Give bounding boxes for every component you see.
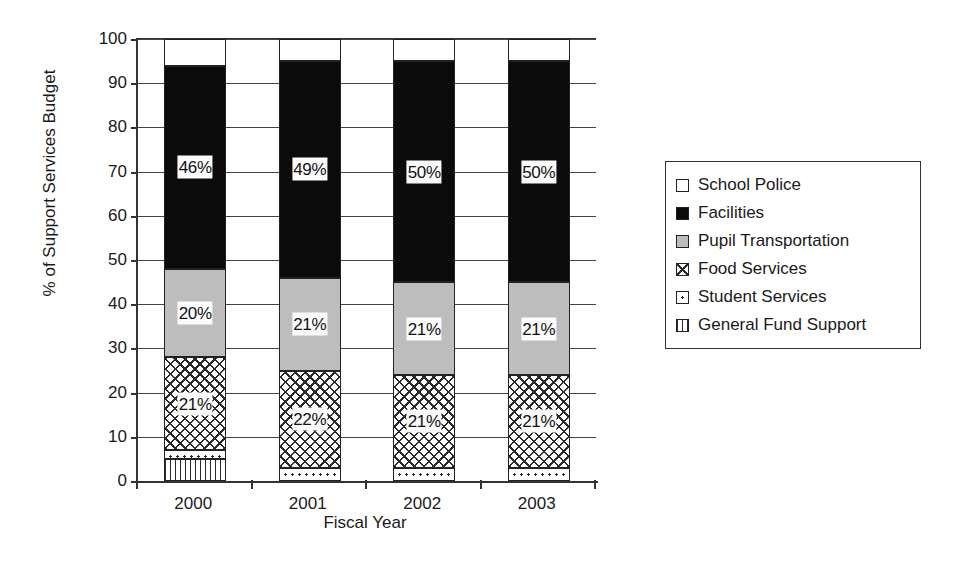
bar-segment-2003-food-services[interactable]: 21% (509, 375, 569, 468)
legend-item-student-services[interactable]: Student Services (676, 283, 912, 311)
y-tick-label-80: 80 (108, 117, 127, 137)
x-tick-label-2003: 2003 (518, 494, 556, 514)
bar-segment-2002-student-services[interactable] (394, 468, 454, 481)
bar-segment-value-label: 21% (407, 410, 442, 433)
bar-segment-2002-food-services[interactable]: 21% (394, 375, 454, 468)
legend-swatch-icon (676, 179, 689, 192)
y-tick-label-20: 20 (108, 383, 127, 403)
legend-item-label: Student Services (698, 287, 827, 307)
legend-item-pupil-transportation[interactable]: Pupil Transportation (676, 227, 912, 255)
y-tick-mark-70 (131, 172, 138, 174)
legend-swatch-icon (676, 291, 689, 304)
x-tick-mark-0 (136, 480, 138, 489)
chart-legend: School PoliceFacilitiesPupil Transportat… (665, 161, 921, 349)
y-tick-label-30: 30 (108, 338, 127, 358)
bar-segment-value-label: 21% (178, 392, 213, 415)
y-tick-label-40: 40 (108, 294, 127, 314)
bar-2003[interactable]: 21%21%50% (508, 39, 570, 481)
legend-item-label: Pupil Transportation (698, 231, 849, 251)
x-tick-mark-1 (251, 480, 253, 489)
legend-item-label: Food Services (698, 259, 807, 279)
bar-segment-2000-pupil-transportation[interactable]: 20% (165, 269, 225, 357)
bar-segment-2003-student-services[interactable] (509, 468, 569, 481)
bar-segment-value-label: 21% (292, 313, 327, 336)
x-tick-mark-2 (365, 480, 367, 489)
bar-segment-2003-facilities[interactable]: 50% (509, 61, 569, 282)
bar-2000[interactable]: 21%20%46% (164, 39, 226, 481)
bar-segment-2000-school-police[interactable] (165, 39, 225, 66)
legend-swatch-icon (676, 319, 689, 332)
bar-segment-2001-pupil-transportation[interactable]: 21% (280, 278, 340, 371)
bar-segment-2001-school-police[interactable] (280, 39, 340, 61)
bar-segment-2000-general-fund-support[interactable] (165, 459, 225, 481)
bar-segment-value-label: 21% (521, 410, 556, 433)
legend-item-facilities[interactable]: Facilities (676, 199, 912, 227)
y-tick-mark-50 (131, 260, 138, 262)
y-tick-label-60: 60 (108, 206, 127, 226)
bar-segment-2001-facilities[interactable]: 49% (280, 61, 340, 278)
x-tick-label-2002: 2002 (403, 494, 441, 514)
bar-segment-2002-pupil-transportation[interactable]: 21% (394, 282, 454, 375)
bar-segment-value-label: 22% (292, 408, 327, 431)
y-tick-mark-80 (131, 127, 138, 129)
legend-item-general-fund-support[interactable]: General Fund Support (676, 311, 912, 339)
legend-swatch-icon (676, 263, 689, 276)
x-tick-label-2000: 2000 (174, 494, 212, 514)
bar-segment-value-label: 50% (521, 160, 556, 183)
y-tick-mark-20 (131, 393, 138, 395)
bar-segment-2001-food-services[interactable]: 22% (280, 371, 340, 468)
bar-segment-value-label: 20% (178, 302, 213, 325)
bar-segment-value-label: 50% (407, 160, 442, 183)
legend-swatch-icon (676, 207, 689, 220)
plot-area: 0102030405060708090100 21%20%46%22%21%49… (136, 38, 596, 481)
legend-item-label: School Police (698, 175, 801, 195)
legend-item-label: Facilities (698, 203, 764, 223)
y-tick-mark-40 (131, 304, 138, 306)
bar-segment-value-label: 21% (407, 317, 442, 340)
x-axis-title: Fiscal Year (136, 513, 594, 533)
bar-segment-2002-facilities[interactable]: 50% (394, 61, 454, 282)
y-tick-mark-30 (131, 348, 138, 350)
stacked-bar-chart: % of Support Services Budget 01020304050… (0, 0, 955, 572)
y-tick-mark-60 (131, 216, 138, 218)
legend-item-food-services[interactable]: Food Services (676, 255, 912, 283)
y-tick-label-90: 90 (108, 73, 127, 93)
y-tick-label-0: 0 (118, 471, 127, 491)
bar-segment-value-label: 49% (292, 158, 327, 181)
bar-segment-2002-school-police[interactable] (394, 39, 454, 61)
y-tick-label-100: 100 (99, 29, 127, 49)
bar-2002[interactable]: 21%21%50% (393, 39, 455, 481)
x-tick-mark-3 (480, 480, 482, 489)
y-tick-label-70: 70 (108, 162, 127, 182)
x-tick-label-2001: 2001 (289, 494, 327, 514)
bar-segment-2000-student-services[interactable] (165, 450, 225, 459)
legend-swatch-icon (676, 235, 689, 248)
y-tick-mark-100 (131, 39, 138, 41)
bar-segment-2000-food-services[interactable]: 21% (165, 357, 225, 450)
y-tick-mark-90 (131, 83, 138, 85)
bar-segment-value-label: 46% (178, 156, 213, 179)
bar-segment-2003-pupil-transportation[interactable]: 21% (509, 282, 569, 375)
legend-item-school-police[interactable]: School Police (676, 171, 912, 199)
y-tick-label-10: 10 (108, 427, 127, 447)
y-tick-label-50: 50 (108, 250, 127, 270)
bar-segment-2001-student-services[interactable] (280, 468, 340, 481)
y-tick-mark-10 (131, 437, 138, 439)
bar-segment-2003-school-police[interactable] (509, 39, 569, 61)
bars-layer: 21%20%46%22%21%49%21%21%50%21%21%50% (138, 39, 596, 481)
bar-segment-value-label: 21% (521, 317, 556, 340)
legend-item-label: General Fund Support (698, 315, 866, 335)
bar-segment-2000-facilities[interactable]: 46% (165, 66, 225, 269)
bar-2001[interactable]: 22%21%49% (279, 39, 341, 481)
y-axis-title: % of Support Services Budget (40, 0, 60, 383)
x-axis-line (136, 481, 598, 483)
x-tick-mark-end (594, 480, 596, 489)
